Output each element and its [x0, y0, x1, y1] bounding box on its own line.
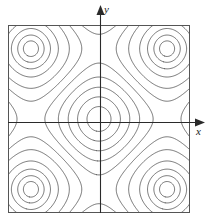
contour-line — [181, 203, 190, 213]
contour-line — [154, 176, 180, 203]
contour-figure: y x — [0, 0, 213, 219]
contour-line — [11, 29, 50, 69]
contour-line — [8, 25, 17, 35]
contour-line — [116, 137, 190, 213]
contour-line — [8, 137, 82, 213]
contour-line — [8, 161, 58, 213]
y-axis-label: y — [104, 4, 109, 15]
contour-line — [8, 25, 58, 77]
contour-line — [148, 169, 187, 209]
contour-plot-canvas — [0, 0, 213, 219]
contour-line — [160, 182, 175, 198]
contour-line — [181, 25, 190, 35]
contour-line — [8, 25, 82, 101]
contour-line — [116, 25, 190, 101]
contour-line — [45, 63, 153, 175]
contour-line — [23, 182, 38, 198]
contour-lines-group — [8, 25, 190, 213]
contour-line — [23, 41, 38, 57]
contour-line — [154, 35, 180, 62]
contour-line — [11, 169, 50, 209]
contour-line — [140, 25, 190, 77]
x-axis-label: x — [196, 126, 201, 137]
contour-line — [8, 101, 17, 137]
contour-line — [8, 203, 17, 213]
contour-line — [18, 35, 44, 62]
plot-frame — [9, 26, 190, 213]
contour-line — [81, 204, 116, 213]
contour-line — [181, 101, 190, 137]
contour-line — [140, 161, 190, 213]
contour-line — [58, 77, 139, 161]
contour-line — [18, 176, 44, 203]
contour-line — [160, 41, 175, 57]
contour-line — [81, 25, 116, 34]
contour-line — [87, 107, 111, 132]
contour-line — [78, 97, 121, 141]
contour-line — [148, 29, 187, 69]
